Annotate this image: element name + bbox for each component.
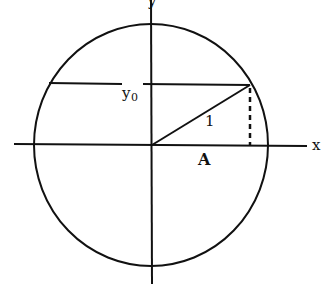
- y0-chord-left: [49, 83, 122, 84]
- unit-circle-diagram: y x y 0 1 A: [0, 0, 327, 302]
- x-axis: [14, 144, 307, 146]
- y0-label: y: [121, 84, 131, 102]
- y0-subscript: 0: [131, 91, 138, 104]
- y-axis: [151, 0, 152, 284]
- radius-line: [152, 85, 250, 145]
- radius-label: 1: [205, 112, 215, 130]
- projection-label: A: [197, 150, 211, 169]
- y0-chord-right: [143, 84, 250, 85]
- y-axis-label: y: [147, 0, 157, 10]
- x-axis-label: x: [312, 136, 321, 154]
